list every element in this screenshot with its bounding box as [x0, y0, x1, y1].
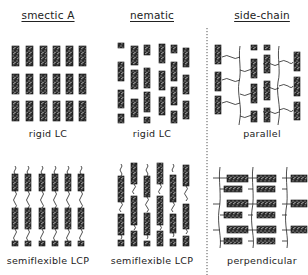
sidechain-perpendicular-panel [213, 167, 307, 248]
caption-nematic-rigid: rigid LC [133, 128, 172, 139]
caption-sidechain-parallel: parallel [243, 128, 281, 139]
smectic-semiflexible-panel [12, 166, 84, 246]
nematic-semiflexible-panel [118, 163, 189, 246]
caption-smectic-rigid: rigid LC [29, 128, 68, 139]
column-title-nematic: nematic [130, 9, 174, 21]
smectic-rigid-panel [12, 46, 86, 121]
column-title-side-chain: side-chain [234, 9, 290, 21]
nematic-rigid-panel [118, 43, 189, 123]
column-title-smectic-a: smectic A [21, 9, 74, 21]
caption-smectic-semiflexible: semiflexible LCP [7, 255, 90, 266]
caption-nematic-semiflexible: semiflexible LCP [111, 255, 194, 266]
caption-sidechain-perpendicular: perpendicular [227, 255, 297, 266]
sidechain-parallel-panel [215, 45, 300, 125]
